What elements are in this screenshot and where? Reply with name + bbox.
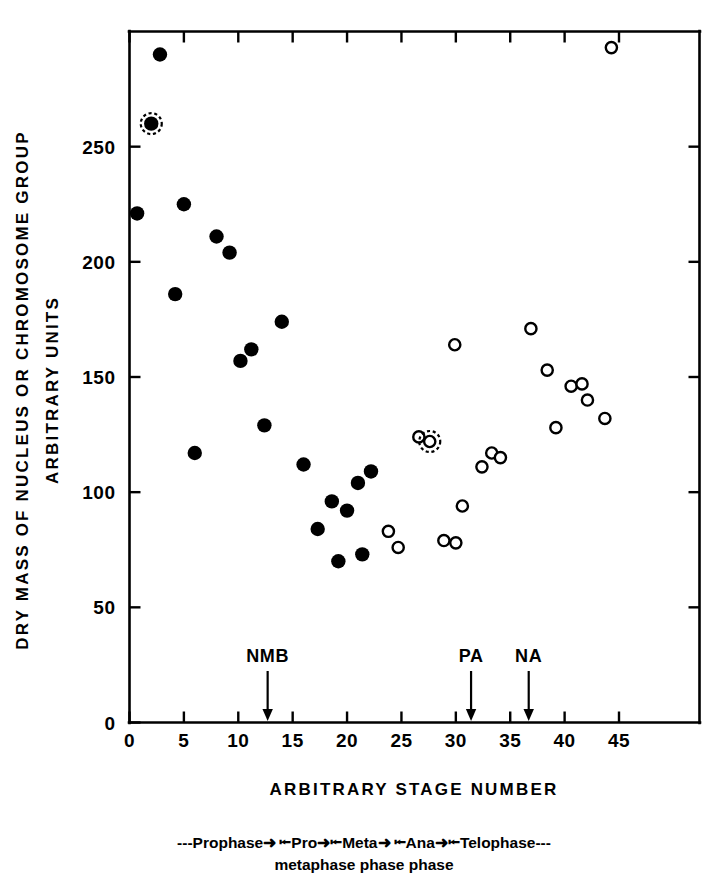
data-point-open: [542, 364, 553, 375]
phase-token-arrows: ➜⭰: [317, 834, 342, 851]
phase-bar-line2: metaphase phase phase: [274, 856, 454, 873]
data-point-open: [393, 542, 404, 553]
data-point-filled: [351, 476, 365, 490]
x-tick-label-45: 45: [608, 730, 630, 751]
data-point-open: [550, 422, 561, 433]
data-point-open: [566, 381, 577, 392]
x-tick-label-20: 20: [336, 730, 358, 751]
data-markers: [130, 42, 617, 568]
x-axis-title: ARBITRARY STAGE NUMBER: [270, 780, 559, 799]
x-tick-label-40: 40: [554, 730, 576, 751]
y-tick-label-100: 100: [82, 482, 115, 503]
data-point-open: [525, 323, 536, 334]
phase-token-arrows: ➜ ⭰: [378, 834, 406, 851]
phase-token-word: Telophase: [460, 834, 536, 851]
annotation-label-nmb: NMB: [246, 646, 289, 666]
data-point-filled: [209, 229, 223, 243]
data-point-open: [383, 526, 394, 537]
data-point-open: [438, 535, 449, 546]
y-tick-label-0: 0: [104, 713, 115, 734]
data-point-filled: [296, 457, 310, 471]
annotation-arrow-head-nmb: [262, 709, 272, 721]
y-tick-label-150: 150: [82, 367, 115, 388]
x-tick-label-10: 10: [227, 730, 249, 751]
data-point-open: [450, 537, 461, 548]
data-point-open: [495, 452, 506, 463]
scatter-plot-svg: 051015202530354045050100150200250 NMBPAN…: [0, 0, 728, 880]
data-point-filled: [153, 47, 167, 61]
annotation-label-pa: PA: [459, 646, 484, 666]
axis-ticks: [130, 32, 700, 723]
data-point-open: [599, 413, 610, 424]
x-tick-label-0: 0: [124, 730, 135, 751]
annotation-arrow-head-pa: [466, 709, 476, 721]
data-point-filled: [331, 554, 345, 568]
y-axis-title-line2: ARBITRARY UNITS: [43, 296, 62, 484]
phase-token-dash: ---: [535, 834, 551, 851]
x-tick-label-5: 5: [178, 730, 189, 751]
phase-token-word: Prophase: [193, 834, 264, 851]
data-point-filled: [144, 116, 158, 130]
phase-token-word: Meta: [342, 834, 378, 851]
axis-tick-labels: 051015202530354045050100150200250: [82, 137, 630, 751]
data-point-filled: [355, 547, 369, 561]
data-point-filled: [177, 197, 191, 211]
data-point-filled: [233, 354, 247, 368]
data-point-filled: [275, 315, 289, 329]
data-point-filled: [257, 418, 271, 432]
x-tick-label-30: 30: [445, 730, 467, 751]
y-tick-label-200: 200: [82, 252, 115, 273]
data-point-filled: [340, 503, 354, 517]
phase-token-arrows: ➜⭰: [435, 834, 460, 851]
x-tick-label-15: 15: [282, 730, 304, 751]
annotation-label-na: NA: [515, 646, 542, 666]
phase-bar-line1: ---Prophase➜ ⭰Pro➜⭰Meta➜ ⭰Ana➜⭰Telophase…: [177, 834, 551, 851]
annotation-arrow-head-na: [524, 709, 534, 721]
data-point-filled: [364, 464, 378, 478]
y-tick-label-50: 50: [93, 597, 115, 618]
data-point-open: [457, 500, 468, 511]
data-point-open: [576, 378, 587, 389]
data-point-filled: [310, 522, 324, 536]
x-tick-label-25: 25: [390, 730, 412, 751]
data-point-filled: [244, 342, 258, 356]
phase-bar: ---Prophase➜ ⭰Pro➜⭰Meta➜ ⭰Ana➜⭰Telophase…: [177, 834, 551, 873]
data-point-filled: [188, 446, 202, 460]
data-point-open: [424, 436, 435, 447]
data-point-filled: [325, 494, 339, 508]
figure-container: 051015202530354045050100150200250 NMBPAN…: [0, 0, 728, 880]
data-point-filled: [222, 245, 236, 259]
phase-token-arrows: ➜ ⭰: [263, 834, 291, 851]
data-point-filled: [168, 287, 182, 301]
data-point-open: [476, 461, 487, 472]
event-annotations: NMBPANA: [246, 646, 542, 721]
y-tick-label-250: 250: [82, 137, 115, 158]
data-point-filled: [130, 206, 144, 220]
plot-frame: [129, 31, 700, 723]
phase-token-dash: ---: [177, 834, 193, 851]
y-axis-title-line1: DRY MASS OF NUCLEUS OR CHROMOSOME GROUP: [13, 130, 32, 649]
data-point-open: [449, 339, 460, 350]
data-point-open: [606, 42, 617, 53]
data-point-open: [582, 394, 593, 405]
phase-token-word: Ana: [406, 834, 436, 851]
x-tick-label-35: 35: [499, 730, 521, 751]
phase-token-word: Pro: [291, 834, 317, 851]
